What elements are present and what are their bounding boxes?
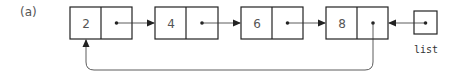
linked-list-diagram: 2 4 6 8 list bbox=[0, 0, 460, 75]
node-4-value: 8 bbox=[338, 17, 346, 31]
list-pointer-label: list bbox=[414, 44, 438, 55]
list-pointer: list bbox=[414, 11, 438, 55]
node-2-value: 4 bbox=[167, 17, 175, 31]
node-1-value: 2 bbox=[82, 17, 90, 31]
node-3-value: 6 bbox=[253, 17, 261, 31]
node-4: 8 bbox=[326, 7, 388, 39]
